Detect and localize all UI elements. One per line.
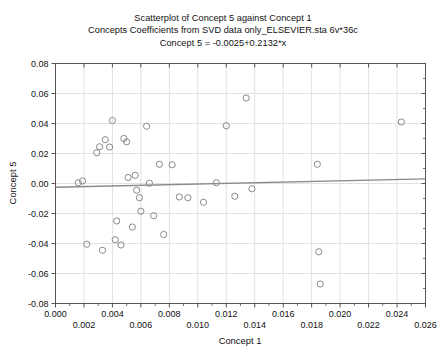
data-point (317, 281, 323, 287)
data-point (136, 195, 142, 201)
data-point (112, 237, 118, 243)
data-point (161, 231, 167, 237)
y-tick-label: 0.02 (31, 149, 49, 159)
x-axis-title: Concept 1 (219, 335, 262, 346)
data-point (243, 95, 249, 101)
x-tick-label: 0.020 (329, 309, 352, 319)
data-point (143, 123, 149, 129)
data-point (132, 172, 138, 178)
data-point (213, 180, 219, 186)
scatterplot-chart: Scatterplot of Concept 5 against Concept… (0, 0, 446, 354)
y-tick-label: -0.02 (28, 209, 49, 219)
x-tick-label: 0.006 (130, 320, 153, 330)
x-tick-label: 0.026 (414, 320, 437, 330)
x-tick-labels: 0.0000.0020.0040.0060.0080.0100.0120.014… (44, 309, 437, 330)
x-tick-label: 0.024 (386, 309, 409, 319)
data-point (185, 195, 191, 201)
data-point (398, 119, 404, 125)
y-tick-label: 0.08 (31, 59, 49, 69)
data-point (169, 162, 175, 168)
y-tick-label: -0.04 (28, 239, 49, 249)
data-point (156, 161, 162, 167)
y-tick-label: 0.06 (31, 89, 49, 99)
data-point (200, 199, 206, 205)
y-tick-label: -0.08 (28, 299, 49, 309)
x-tick-label: 0.012 (215, 309, 238, 319)
x-tick-label: 0.010 (187, 320, 210, 330)
plot-svg: 0.0000.0020.0040.0060.0080.0100.0120.014… (0, 0, 446, 354)
x-tick-label: 0.014 (243, 320, 266, 330)
data-point (129, 224, 135, 230)
data-point (84, 241, 90, 247)
data-point (125, 174, 131, 180)
data-point (118, 242, 124, 248)
data-point (114, 218, 120, 224)
data-point (97, 144, 103, 150)
data-point (134, 187, 140, 193)
data-point (102, 137, 108, 143)
y-axis-title: Concept 5 (7, 162, 18, 205)
x-tick-label: 0.022 (357, 320, 380, 330)
data-point (249, 186, 255, 192)
data-point (232, 193, 238, 199)
data-point (106, 144, 112, 150)
x-tick-label: 0.002 (73, 320, 96, 330)
y-tick-labels: -0.08-0.06-0.04-0.020.000.020.040.060.08 (28, 59, 49, 309)
data-point (94, 150, 100, 156)
x-tick-label: 0.000 (44, 309, 67, 319)
x-tick-label: 0.016 (272, 309, 295, 319)
data-point (99, 247, 105, 253)
data-point (176, 194, 182, 200)
data-point (316, 249, 322, 255)
y-tick-label: 0.00 (31, 179, 49, 189)
data-point (314, 161, 320, 167)
y-tick-label: 0.04 (31, 119, 49, 129)
x-tick-label: 0.004 (101, 309, 124, 319)
x-tick-label: 0.018 (300, 320, 323, 330)
y-tick-label: -0.06 (28, 269, 49, 279)
x-tick-label: 0.008 (158, 309, 181, 319)
